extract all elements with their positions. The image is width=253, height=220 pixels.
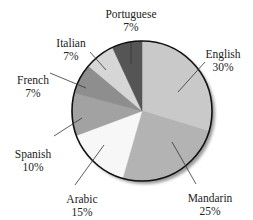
slice-label-name: Spanish [15, 148, 51, 161]
slice-label-name: Arabic [66, 193, 97, 206]
slice-label-arabic: Arabic15% [66, 193, 97, 219]
slice-label-english: English30% [205, 48, 240, 74]
slice-label-italian: Italian7% [56, 37, 85, 63]
slice-label-name: Mandarin [188, 192, 233, 205]
slice-label-portuguese: Portuguese7% [105, 8, 156, 34]
slice-label-name: Portuguese [105, 8, 156, 21]
slice-label-name: English [205, 48, 240, 61]
slice-label-french: French7% [17, 74, 49, 100]
slice-label-percent: 7% [105, 21, 156, 34]
slice-label-percent: 25% [188, 205, 233, 218]
slice-label-percent: 7% [56, 50, 85, 63]
slice-label-mandarin: Mandarin25% [188, 192, 233, 218]
slice-label-percent: 7% [17, 87, 49, 100]
slice-label-percent: 10% [15, 161, 51, 174]
slice-label-name: French [17, 74, 49, 87]
slice-label-percent: 30% [205, 61, 240, 74]
slice-label-name: Italian [56, 37, 85, 50]
slice-label-spanish: Spanish10% [15, 148, 51, 174]
slice-label-percent: 15% [66, 206, 97, 219]
